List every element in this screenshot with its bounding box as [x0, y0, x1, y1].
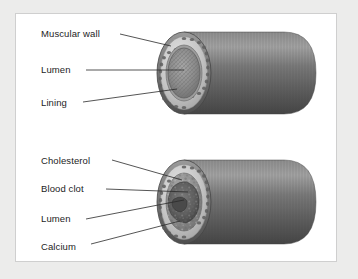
label-lumen-diseased: Lumen — [41, 213, 71, 224]
figure-healthy-artery: Muscular wall Lumen Lining — [16, 14, 338, 132]
figure-diseased-artery: Cholesterol Blood clot Lumen Calcium — [16, 142, 338, 263]
illustration-panel: Muscular wall Lumen Lining — [15, 13, 337, 262]
illustration-root: Muscular wall Lumen Lining — [0, 0, 358, 279]
label-cholesterol: Cholesterol — [41, 155, 90, 166]
label-muscular-wall: Muscular wall — [41, 28, 100, 39]
label-lumen-healthy: Lumen — [41, 64, 71, 75]
label-calcium: Calcium — [41, 241, 76, 252]
label-blood-clot: Blood clot — [41, 183, 84, 194]
leader-muscular-wall — [120, 34, 171, 46]
label-lining: Lining — [41, 97, 67, 108]
